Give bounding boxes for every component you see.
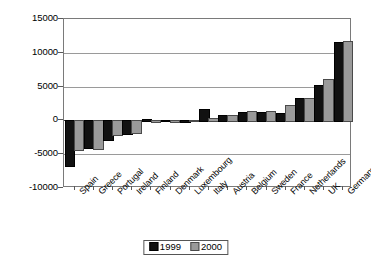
x-tick-mark-italy <box>208 186 209 190</box>
y-tick-label--10000: -10000 <box>0 182 58 192</box>
bar-group-denmark <box>160 19 179 186</box>
x-label-austria: Austria <box>231 190 237 196</box>
x-tick-mark-france <box>285 186 286 190</box>
y-tick-mark--10000 <box>58 187 63 188</box>
bar-group-france <box>275 19 294 186</box>
x-tick-mark-germany <box>342 186 343 190</box>
chart-legend: 1999 2000 <box>143 240 228 255</box>
x-tick-mark-netherlands <box>304 186 305 190</box>
x-label-denmark: Denmark <box>174 190 180 196</box>
x-label-germany: Germany <box>346 190 352 196</box>
plot-area <box>63 18 351 187</box>
legend-label-2000: 2000 <box>201 242 222 252</box>
legend-swatch-1999 <box>149 242 158 251</box>
x-tick-mark-sweden <box>266 186 267 190</box>
x-label-finland: Finland <box>154 190 160 196</box>
x-tick-mark-belgium <box>246 186 247 190</box>
bar-group-luxembourg <box>179 19 198 186</box>
x-label-belgium: Belgium <box>250 190 256 196</box>
bar-group-ireland <box>122 19 141 186</box>
bar-group-uk <box>314 19 333 186</box>
x-tick-mark-ireland <box>131 186 132 190</box>
x-tick-mark-austria <box>227 186 228 190</box>
bar-group-belgium <box>237 19 256 186</box>
bar-group-italy <box>198 19 217 186</box>
bar-chart-figure: 150001000050000-5000-10000 SpainGreecePo… <box>0 0 371 265</box>
x-label-spain: Spain <box>78 190 84 196</box>
bar-group-sweden <box>256 19 275 186</box>
y-tick-label-10000: 10000 <box>0 47 58 57</box>
x-tick-mark-finland <box>150 186 151 190</box>
bar-group-austria <box>218 19 237 186</box>
legend-entry-1999[interactable]: 1999 <box>149 242 181 252</box>
y-tick-label-5000: 5000 <box>0 81 58 91</box>
bar-group-spain <box>64 19 83 186</box>
legend-entry-2000[interactable]: 2000 <box>190 242 222 252</box>
x-label-greece: Greece <box>97 190 103 196</box>
x-label-portugal: Portugal <box>116 190 122 196</box>
legend-swatch-2000 <box>190 242 199 251</box>
x-label-france: France <box>289 190 295 196</box>
bar-germany-2000[interactable] <box>343 41 354 123</box>
bar-group-finland <box>141 19 160 186</box>
x-label-luxembourg: Luxembourg <box>193 190 199 196</box>
bar-group-greece <box>83 19 102 186</box>
x-tick-mark-spain <box>74 186 75 190</box>
x-label-ireland: Ireland <box>135 190 141 196</box>
x-tick-mark-uk <box>323 186 324 190</box>
x-label-sweden: Sweden <box>270 190 276 196</box>
bar-group-netherlands <box>294 19 313 186</box>
x-label-netherlands: Netherlands <box>308 190 314 196</box>
y-tick-label-15000: 15000 <box>0 13 58 23</box>
x-label-uk: UK <box>327 190 333 196</box>
x-tick-mark-portugal <box>112 186 113 190</box>
bar-series-container <box>64 19 350 186</box>
y-tick-label-0: 0 <box>0 114 58 124</box>
x-label-italy: Italy <box>212 190 218 196</box>
x-tick-mark-luxembourg <box>189 186 190 190</box>
x-tick-mark-denmark <box>170 186 171 190</box>
y-tick-label--5000: -5000 <box>0 148 58 158</box>
bar-group-portugal <box>102 19 121 186</box>
legend-label-1999: 1999 <box>160 242 181 252</box>
x-tick-mark-greece <box>93 186 94 190</box>
bar-group-germany <box>333 19 352 186</box>
